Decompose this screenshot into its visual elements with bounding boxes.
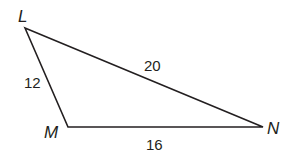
- side-label-ln: 20: [144, 57, 161, 74]
- vertex-label-m: M: [44, 123, 59, 142]
- triangle-diagram: L M N 12 20 16: [0, 0, 293, 157]
- vertex-label-n: N: [267, 119, 280, 138]
- triangle-lmn: [25, 28, 263, 127]
- vertex-label-l: L: [18, 7, 27, 26]
- side-label-mn: 16: [146, 136, 163, 153]
- side-label-lm: 12: [24, 74, 41, 91]
